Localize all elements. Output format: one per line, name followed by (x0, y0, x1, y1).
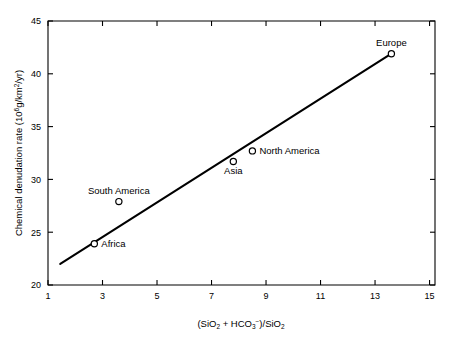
x-axis-title-sub: 2 (281, 323, 285, 330)
y-tick-label: 45 (31, 16, 41, 26)
y-axis-title-part: /yr) (13, 70, 24, 84)
data-point-label: Europe (376, 37, 407, 48)
y-axis-tick-labels: 202530354045 (31, 16, 41, 290)
x-tick-label: 15 (425, 291, 435, 301)
y-tick-label: 20 (31, 280, 41, 290)
data-point-marker (91, 241, 97, 247)
y-tick-label: 30 (31, 175, 41, 185)
x-tick-label: 3 (100, 291, 105, 301)
data-point-label: Africa (101, 238, 126, 249)
data-point-labels: AfricaSouth AmericaAsiaNorth AmericaEuro… (88, 37, 407, 249)
y-axis-title-part: g/km (13, 87, 24, 108)
x-tick-label: 11 (316, 291, 325, 301)
x-tick-label: 7 (209, 291, 214, 301)
x-axis-title-part: (SiO (197, 318, 216, 329)
y-axis-title-part: Chemical denudation rate (10 (13, 111, 24, 236)
x-axis-title-part: )/SiO (259, 318, 281, 329)
data-point-label: South America (88, 185, 150, 196)
data-point-label: Asia (224, 165, 243, 176)
x-tick-label: 13 (370, 291, 380, 301)
data-point-marker (116, 198, 122, 204)
x-axis-title: (SiO2 + HCO3−)/SiO2 (197, 318, 285, 330)
trend-line (60, 54, 391, 264)
data-point-marker (230, 158, 236, 164)
chart-container: 13579111315 202530354045 AfricaSouth Ame… (0, 0, 474, 341)
x-axis-tick-labels: 13579111315 (45, 291, 434, 301)
data-point-marker (249, 148, 255, 154)
scatter-plot: 13579111315 202530354045 AfricaSouth Ame… (0, 0, 474, 341)
y-tick-label: 40 (31, 69, 41, 79)
x-tick-label: 1 (45, 291, 50, 301)
x-tick-label: 5 (155, 291, 160, 301)
x-axis-title-part: + HCO (220, 318, 252, 329)
x-tick-label: 9 (264, 291, 269, 301)
y-tick-label: 25 (31, 228, 41, 238)
data-point-marker (388, 51, 394, 57)
data-point-label: North America (259, 145, 320, 156)
y-tick-label: 35 (31, 122, 41, 132)
y-axis-title: Chemical denudation rate (106g/km2/yr) (13, 70, 24, 236)
